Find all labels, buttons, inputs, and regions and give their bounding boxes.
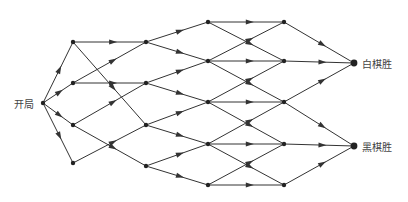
arrow-icon xyxy=(246,19,254,24)
start-label: 开局 xyxy=(14,96,34,111)
start-node xyxy=(41,101,45,105)
arrow-icon xyxy=(318,159,328,167)
tree-node xyxy=(206,59,210,63)
arrow-icon xyxy=(55,65,63,74)
tree-node xyxy=(71,81,75,85)
arrow-icon xyxy=(246,99,254,104)
arrow-icon xyxy=(175,150,184,158)
tree-node xyxy=(206,20,210,24)
edge xyxy=(284,102,354,146)
arrow-icon xyxy=(318,142,326,147)
black-win-node xyxy=(351,143,358,150)
white-win-label: 白棋胜 xyxy=(362,56,392,71)
tree-node xyxy=(282,100,286,104)
tree-node xyxy=(282,59,286,63)
arrow-icon xyxy=(175,27,184,34)
tree-node xyxy=(144,40,148,44)
arrow-icon xyxy=(55,111,65,120)
tree-node xyxy=(282,20,286,24)
edge xyxy=(284,22,354,63)
nodes xyxy=(41,20,358,187)
edge xyxy=(284,146,354,185)
tree-node xyxy=(144,123,148,127)
white-win-node xyxy=(351,60,358,67)
arrow-icon xyxy=(55,131,63,140)
arrow-icon xyxy=(175,67,184,75)
arrow-icon xyxy=(109,39,117,44)
arrow-icon xyxy=(318,122,328,131)
arrow-icon xyxy=(318,76,328,84)
tree-node xyxy=(144,81,148,85)
black-win-label: 黑棋胜 xyxy=(362,139,392,154)
game-tree-diagram xyxy=(0,0,408,202)
arrow-icon xyxy=(108,143,118,151)
edge xyxy=(73,83,146,125)
arrow-icon xyxy=(176,90,185,97)
arrow-icon xyxy=(246,141,254,146)
tree-node xyxy=(282,142,286,146)
arrow-icon xyxy=(246,182,254,187)
edge xyxy=(73,42,146,83)
tree-node xyxy=(282,183,286,187)
tree-node xyxy=(71,123,75,127)
arrow-icon xyxy=(55,88,65,97)
tree-node xyxy=(206,183,210,187)
arrow-icon xyxy=(176,173,185,180)
tree-node xyxy=(71,161,75,165)
tree-node xyxy=(206,142,210,146)
tree-node xyxy=(71,40,75,44)
arrow-icon xyxy=(175,109,184,117)
arrow-icon xyxy=(108,138,117,146)
arrow-icon xyxy=(318,40,328,49)
arrow-icon xyxy=(246,58,254,63)
tree-node xyxy=(144,164,148,168)
arrow-icon xyxy=(318,59,326,64)
arrow-icon xyxy=(176,132,185,139)
edges xyxy=(43,19,354,187)
arrow-icon xyxy=(176,49,185,56)
arrow-icon xyxy=(108,98,118,106)
tree-node xyxy=(206,100,210,104)
arrow-icon xyxy=(108,56,118,64)
edge xyxy=(284,63,354,102)
